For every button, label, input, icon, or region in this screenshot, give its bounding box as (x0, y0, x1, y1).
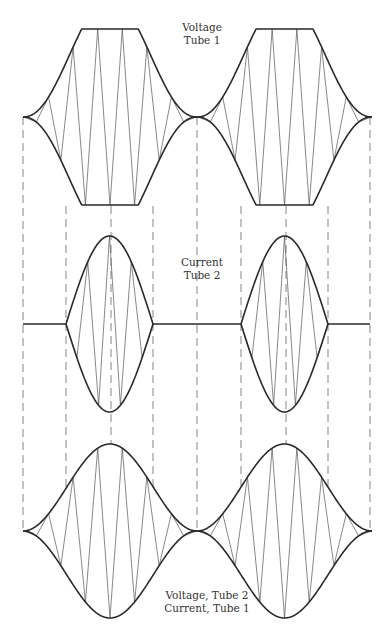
label-current-tube-2: Current Tube 2 (172, 256, 232, 282)
waveform-diagram (0, 0, 391, 637)
label-line: Voltage (172, 21, 232, 34)
label-line: Voltage, Tube 2 (152, 589, 262, 602)
label-line: Tube 1 (172, 34, 232, 47)
label-voltage-tube-1: Voltage Tube 1 (172, 21, 232, 47)
label-voltage-tube-2-current-tube-1: Voltage, Tube 2 Current, Tube 1 (152, 589, 262, 615)
label-line: Tube 2 (172, 269, 232, 282)
voltage-tube-1-waveform (23, 29, 372, 205)
label-line: Current, Tube 1 (152, 602, 262, 615)
label-line: Current (172, 256, 232, 269)
